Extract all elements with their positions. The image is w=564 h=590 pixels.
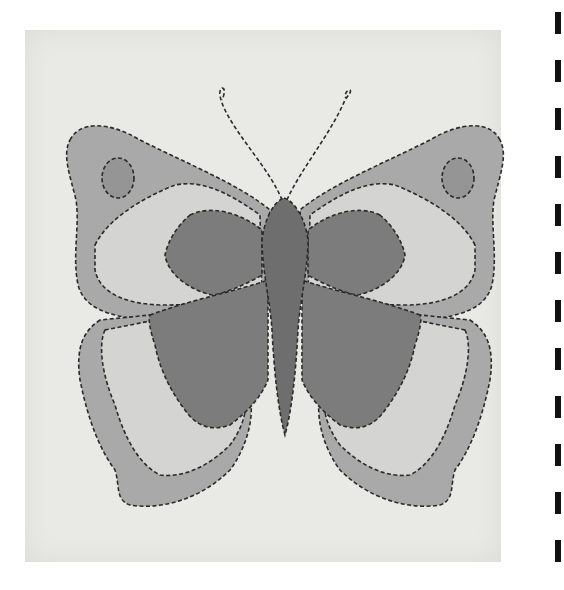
butterfly-illustration: [0, 0, 564, 590]
page-edge-marks: [552, 0, 564, 590]
right-wing-spot: [442, 158, 474, 198]
butterfly-body: [262, 198, 308, 435]
left-wing-spot: [102, 158, 134, 198]
